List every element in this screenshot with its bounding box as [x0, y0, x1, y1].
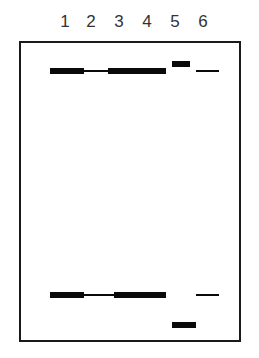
band-lane-6-upper — [196, 70, 219, 72]
band-lane-3-4-upper — [108, 68, 166, 74]
band-lane-1-upper — [50, 68, 84, 74]
band-lane-3-4-lower — [114, 292, 166, 298]
band-lane-1-lower — [50, 292, 84, 298]
lane-label-4: 4 — [137, 12, 157, 32]
band-lane-5-upper — [172, 61, 190, 67]
lane-label-2: 2 — [81, 12, 101, 32]
band-lane-6-lower — [196, 294, 219, 296]
lane-label-6: 6 — [193, 12, 213, 32]
band-lane-2-upper — [84, 70, 108, 72]
lane-label-1: 1 — [55, 12, 75, 32]
lane-label-5: 5 — [165, 12, 185, 32]
lane-label-3: 3 — [109, 12, 129, 32]
band-lane-5-lower — [172, 322, 196, 328]
band-lane-2-lower — [84, 294, 114, 296]
